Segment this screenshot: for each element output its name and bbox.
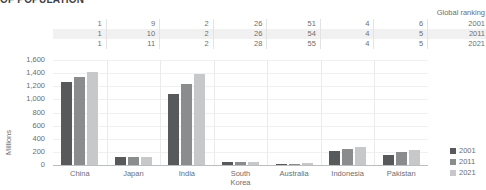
legend-item[interactable]: 2021 xyxy=(450,168,476,178)
bar xyxy=(61,82,72,165)
ranking-row-year: 2011 xyxy=(428,29,486,39)
ranking-row: 11122855452021 xyxy=(53,39,486,49)
bar xyxy=(115,157,126,165)
category-separator xyxy=(107,60,108,166)
ranking-cell: 1 xyxy=(53,39,107,49)
ranking-cell: 5 xyxy=(374,39,428,49)
y-axis-tick-label: 200 xyxy=(32,148,45,156)
y-axis-tick-label: 800 xyxy=(32,109,45,117)
ranking-cell: 2 xyxy=(160,29,214,39)
ranking-cell: 26 xyxy=(214,29,268,39)
ranking-cell: 10 xyxy=(107,29,161,39)
x-axis-tick-label: South Korea xyxy=(214,170,268,187)
bar xyxy=(194,74,205,165)
chart-figure: OF POPULATION Global ranking 19226514620… xyxy=(0,0,486,190)
y-axis-tick-label: 600 xyxy=(32,122,45,130)
ranking-cell: 2 xyxy=(160,39,214,49)
bar xyxy=(181,84,192,165)
y-axis-tick-label: 1,600 xyxy=(26,56,45,64)
page-title: OF POPULATION xyxy=(0,0,84,5)
ranking-cell: 2 xyxy=(160,19,214,29)
x-axis-line xyxy=(53,165,428,166)
ranking-row-year: 2021 xyxy=(428,39,486,49)
category-separator xyxy=(321,60,322,166)
x-axis-tick-label: Australia xyxy=(267,170,321,179)
ranking-cell: 6 xyxy=(374,19,428,29)
x-axis-tick-label: Japan xyxy=(107,170,161,179)
bar-group xyxy=(61,60,98,165)
bar xyxy=(342,149,353,165)
ranking-cell: 4 xyxy=(321,39,375,49)
category-separator xyxy=(160,60,161,166)
category-separator xyxy=(374,60,375,166)
bar xyxy=(168,94,179,165)
global-ranking-table: Global ranking 1922651462001110226544520… xyxy=(53,8,486,54)
legend-swatch-icon xyxy=(450,170,456,176)
legend-swatch-icon xyxy=(450,148,456,154)
legend-label: 2011 xyxy=(459,158,475,166)
legend-label: 2001 xyxy=(459,147,476,155)
ranking-cell: 28 xyxy=(214,39,268,49)
category-separator xyxy=(267,60,268,166)
ranking-cell: 9 xyxy=(107,19,161,29)
ranking-cell: 1 xyxy=(53,19,107,29)
bar xyxy=(409,150,420,165)
bar xyxy=(87,72,98,165)
bar-group xyxy=(276,60,313,165)
y-axis-tick-label: 1,200 xyxy=(26,82,45,90)
legend-item[interactable]: 2011 xyxy=(450,157,476,167)
ranking-row-year: 2001 xyxy=(428,19,486,29)
bar xyxy=(141,157,152,165)
bar xyxy=(355,147,366,165)
ranking-cell: 55 xyxy=(267,39,321,49)
ranking-cell: 4 xyxy=(321,19,375,29)
legend-label: 2021 xyxy=(459,169,476,177)
y-axis-tick-label: 1,400 xyxy=(26,69,45,77)
ranking-cell: 1 xyxy=(53,29,107,39)
bar-group xyxy=(168,60,205,165)
ranking-cell: 51 xyxy=(267,19,321,29)
chart-legend: 200120112021 xyxy=(450,146,476,179)
x-axis-tick-label: Pakistan xyxy=(374,170,428,179)
bar xyxy=(383,155,394,165)
legend-item[interactable]: 2001 xyxy=(450,146,476,156)
bar xyxy=(396,152,407,165)
bar-group xyxy=(115,60,152,165)
bar-group xyxy=(222,60,259,165)
ranking-cell: 4 xyxy=(321,29,375,39)
bar-group xyxy=(329,60,366,165)
y-axis-tick-label: 400 xyxy=(32,135,45,143)
x-axis-tick-label: Indonesia xyxy=(321,170,375,179)
ranking-row: 11022654452011 xyxy=(53,29,486,39)
y-axis-tick-label: 0 xyxy=(41,161,45,169)
ranking-cell: 11 xyxy=(107,39,161,49)
legend-swatch-icon xyxy=(450,159,456,165)
ranking-cell: 26 xyxy=(214,19,268,29)
bar xyxy=(74,77,85,165)
category-separator xyxy=(214,60,215,166)
x-axis-tick-label: China xyxy=(53,170,107,179)
ranking-cell: 5 xyxy=(374,29,428,39)
global-ranking-header: Global ranking xyxy=(437,8,485,17)
bar-group xyxy=(383,60,420,165)
plot-area xyxy=(53,60,428,166)
x-axis-tick-label: India xyxy=(160,170,214,179)
y-axis: Millions 1,6001,4001,2001,00080060040020… xyxy=(0,60,49,167)
bar xyxy=(329,151,340,165)
y-axis-title: Millions xyxy=(4,130,13,155)
y-axis-tick-label: 1,000 xyxy=(26,95,45,103)
ranking-cell: 54 xyxy=(267,29,321,39)
bar xyxy=(128,157,139,165)
ranking-row: 1922651462001 xyxy=(53,19,486,29)
